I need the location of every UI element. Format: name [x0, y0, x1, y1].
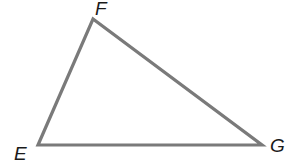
triangle-efg	[38, 19, 262, 145]
vertex-label-e: E	[14, 143, 27, 164]
vertex-label-g: G	[270, 135, 285, 156]
triangle-diagram: F E G	[0, 0, 304, 167]
vertex-label-f: F	[95, 0, 108, 19]
